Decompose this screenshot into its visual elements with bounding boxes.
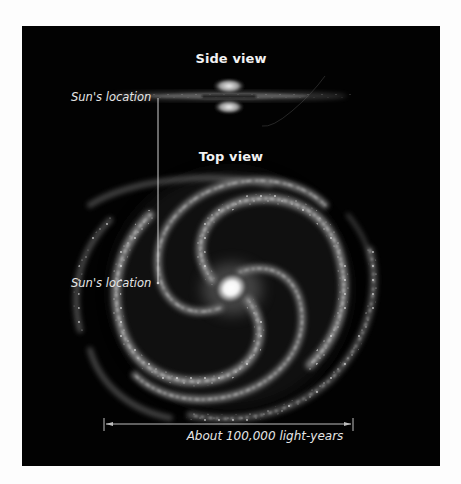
top-view-galaxy <box>76 170 373 419</box>
top-view-sun-location-label: Sun's location <box>71 276 151 290</box>
side-view-sun-location-label: Sun's location <box>71 90 151 104</box>
scale-bar-label: About 100,000 light-years <box>187 429 344 443</box>
side-view-title: Side view <box>195 51 266 66</box>
galaxy-figure-panel: Side view Sun's location Top view Sun's … <box>22 26 440 466</box>
top-view-title: Top view <box>199 149 263 164</box>
